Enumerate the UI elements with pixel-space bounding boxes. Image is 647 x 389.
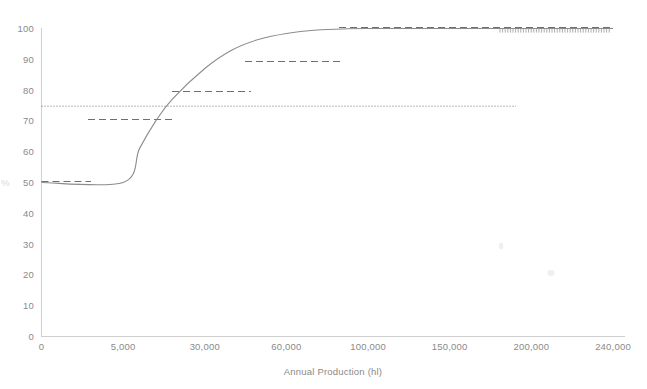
y-tick-label: 40: [23, 208, 34, 219]
x-tick-label: 0: [39, 341, 44, 352]
y-tick-label: 0: [29, 331, 34, 342]
line-chart: 0102030405060708090100 05,00030,00060,00…: [0, 0, 647, 389]
x-tick-label: 100,000: [350, 341, 386, 352]
y-tick-label: 90: [23, 54, 34, 65]
y-tick-label: 50: [23, 177, 34, 188]
x-tick-label: 30,000: [190, 341, 220, 352]
y-tick-label: 10: [23, 300, 34, 311]
y-tick-label: 30: [23, 239, 34, 250]
production-rate-curve: [42, 28, 614, 185]
y-tick-label: 80: [23, 85, 34, 96]
x-tick-label: 240,000: [595, 341, 631, 352]
y-tick-label: 20: [23, 269, 34, 280]
x-axis-tick-labels: 05,00030,00060,000100,000150,000200,0002…: [39, 341, 631, 352]
x-tick-label: 60,000: [271, 341, 301, 352]
y-axis-tick-labels: 0102030405060708090100: [18, 23, 34, 342]
y-tick-label: 70: [23, 115, 34, 126]
chart-container: 0102030405060708090100 05,00030,00060,00…: [0, 0, 647, 389]
chart-axes: [42, 28, 626, 337]
faint-artifacts: [499, 243, 555, 276]
x-tick-label: 150,000: [432, 341, 468, 352]
x-tick-label: 5,000: [111, 341, 136, 352]
y-axis-title-clipped: %: [1, 177, 10, 188]
y-tick-label: 100: [18, 23, 34, 34]
dashed-band-segments: [42, 28, 614, 182]
y-tick-label: 60: [23, 146, 34, 157]
hatch-marks: [500, 29, 609, 33]
x-axis-title: Annual Production (hl): [284, 366, 382, 377]
x-tick-label: 200,000: [513, 341, 549, 352]
